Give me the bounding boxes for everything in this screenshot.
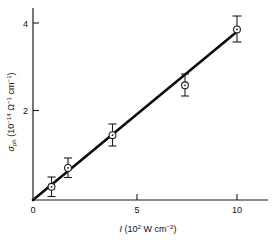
data-marker-center-dot [236, 29, 238, 31]
x-axis-open: (10 [122, 224, 138, 234]
svg-text:σph (10−14 Ω−1 cm−1): σph (10−14 Ω−1 cm−1) [5, 72, 17, 151]
y-axis-unit2: cm [6, 82, 16, 97]
data-marker-center-dot [51, 186, 53, 188]
y-tick-label-2: 2 [23, 106, 28, 116]
data-marker-center-dot [112, 134, 114, 136]
x-axis-close: ) [174, 224, 177, 234]
x-tick-label-10: 10 [232, 205, 242, 215]
data-point-3 [109, 124, 117, 146]
y-axis-unit1: Ω [6, 104, 16, 114]
x-axis-unit1: W cm [141, 224, 167, 234]
y-axis-ticks [33, 23, 39, 111]
y-axis-close: ) [6, 72, 16, 75]
y-axis-open: (10 [6, 124, 16, 140]
x-tick-label-0: 0 [30, 205, 35, 215]
photoconductivity-chart-figure: 4 2 0 5 10 [0, 0, 274, 242]
data-marker-center-dot [184, 84, 186, 86]
linear-fit-line [33, 30, 239, 200]
x-axis-title: I (102 W cm−2) [119, 223, 176, 234]
y-axis-exp1: −14 [5, 113, 12, 124]
data-marker-center-dot [67, 167, 69, 169]
chart-canvas: 4 2 0 5 10 [0, 0, 274, 242]
data-point-1 [48, 177, 56, 197]
y-axis-title: σph (10−14 Ω−1 cm−1) [5, 72, 17, 151]
y-tick-label-4: 4 [23, 19, 28, 29]
data-point-5 [233, 16, 242, 42]
x-axis-ticks [137, 194, 237, 200]
x-tick-label-5: 5 [134, 205, 139, 215]
